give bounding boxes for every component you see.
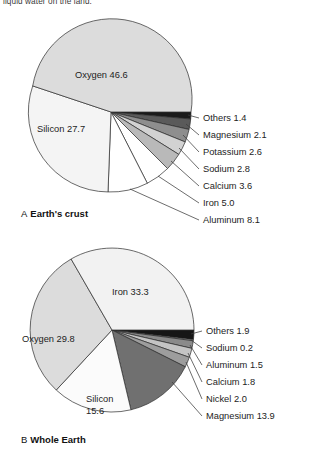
pie-chart-whole-earth: Iron 33.3 Oxygen 29.8 Silicon 15.6 Other… bbox=[0, 235, 331, 450]
figure-container: liquid water on the land. Oxygen 46.6 Si… bbox=[0, 0, 331, 451]
leader-line-potassium bbox=[183, 135, 199, 152]
callout-sodium: Sodium 2.8 bbox=[203, 164, 250, 174]
callout-b-nickel: Nickel 2.0 bbox=[206, 394, 247, 404]
callout-b-aluminum: Aluminum 1.5 bbox=[206, 360, 263, 370]
leader-line-sodium bbox=[179, 148, 199, 169]
caption-title-a: Earth's crust bbox=[30, 208, 88, 219]
pie-label-b-silicon-value: 15.6 bbox=[86, 406, 104, 416]
leader-line-b-aluminum bbox=[190, 345, 202, 365]
callout-b-calcium: Calcium 1.8 bbox=[206, 377, 255, 387]
leader-line-aluminum bbox=[130, 189, 199, 220]
callout-potassium: Potassium 2.6 bbox=[203, 147, 262, 157]
caption-whole-earth: BWhole Earth bbox=[21, 434, 86, 445]
caption-letter-a: A bbox=[21, 208, 27, 219]
pie-chart-earths-crust: Oxygen 46.6 Silicon 27.7 Others 1.4 Magn… bbox=[0, 0, 331, 235]
pie-label-oxygen: Oxygen 46.6 bbox=[75, 70, 128, 80]
callout-b-sodium: Sodium 0.2 bbox=[206, 343, 253, 353]
pie-label-silicon: Silicon 27.7 bbox=[37, 124, 85, 134]
leader-line-b-calcium bbox=[188, 353, 202, 382]
caption-title-b: Whole Earth bbox=[30, 434, 85, 445]
callout-b-others: Others 1.9 bbox=[206, 326, 249, 336]
callout-magnesium: Magnesium 2.1 bbox=[203, 130, 267, 140]
callout-iron: Iron 5.0 bbox=[203, 198, 235, 208]
leader-line-b-magnesium bbox=[172, 382, 202, 416]
pie-label-b-iron: Iron 33.3 bbox=[112, 287, 149, 297]
callout-aluminum: Aluminum 8.1 bbox=[203, 215, 260, 225]
pie-label-b-silicon: Silicon bbox=[86, 394, 113, 404]
caption-letter-b: B bbox=[21, 434, 27, 445]
leader-line-b-nickel bbox=[186, 362, 202, 399]
caption-earths-crust: AEarth's crust bbox=[21, 208, 88, 219]
callout-b-magnesium: Magnesium 13.9 bbox=[206, 411, 275, 421]
callout-calcium: Calcium 3.6 bbox=[203, 181, 252, 191]
callout-others: Others 1.4 bbox=[203, 113, 246, 123]
pie-label-b-oxygen: Oxygen 29.8 bbox=[22, 334, 75, 344]
